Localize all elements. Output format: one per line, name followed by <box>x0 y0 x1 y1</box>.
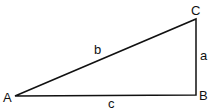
vertex-label-c: C <box>191 3 200 18</box>
side-label-a: a <box>200 48 208 63</box>
vertex-label-a: A <box>3 90 12 105</box>
vertex-label-b: B <box>199 88 208 103</box>
side-label-c: c <box>108 96 115 111</box>
triangle-shape <box>15 19 196 96</box>
side-label-b: b <box>94 42 101 57</box>
triangle-diagram: A B C a b c <box>0 0 212 112</box>
